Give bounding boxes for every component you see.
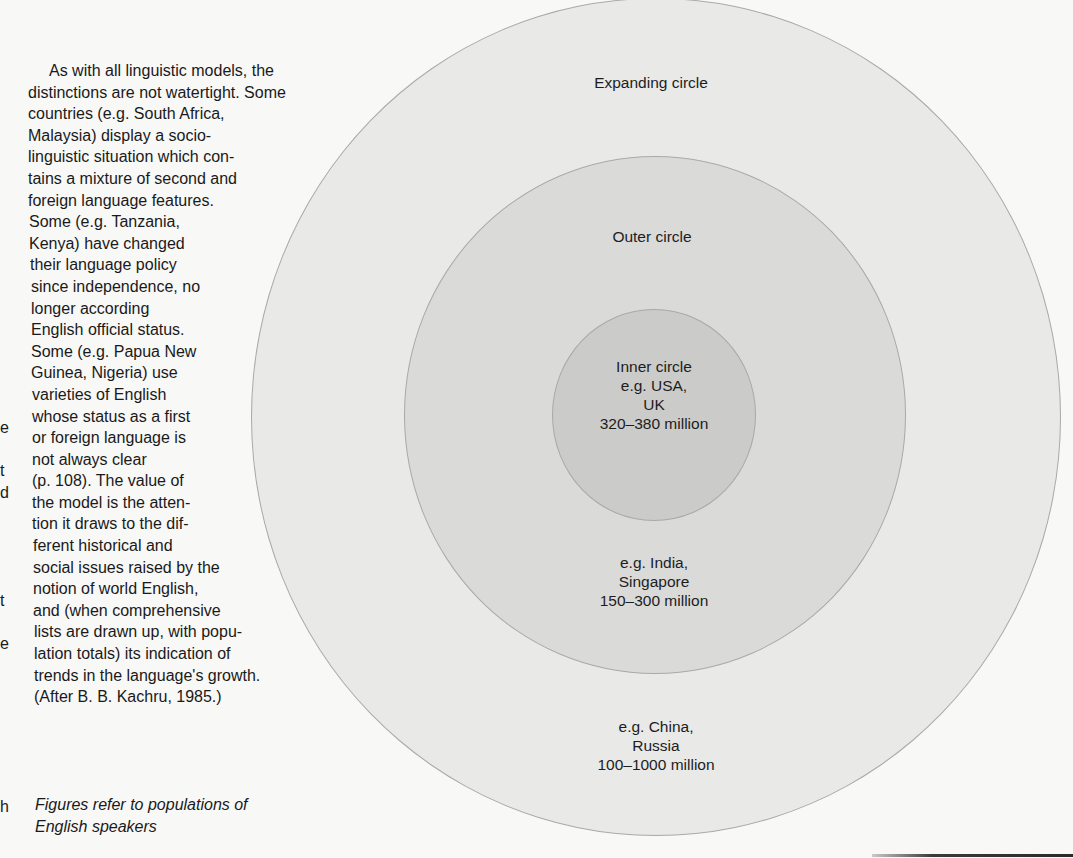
text-line: Malaysia) display a socio- (28, 125, 373, 147)
text-line: Guinea, Nigeria) use (28, 362, 373, 384)
text-line: the model is the atten- (28, 492, 373, 514)
text-line: since independence, no (28, 276, 373, 298)
text-line: their language policy (28, 254, 373, 276)
outer-circle-title-text: Outer circle (612, 227, 691, 246)
inner-circle-examples-1: e.g. USA, (600, 376, 709, 395)
caption-line: Figures refer to populations of (35, 794, 248, 816)
text-line: or foreign language is (28, 427, 373, 449)
adjacent-column-fragment: e (0, 418, 9, 438)
text-line: foreign language features. (28, 190, 373, 212)
text-line: English official status. (28, 319, 373, 341)
text-line: Kenya) have changed (28, 233, 373, 255)
expanding-circle-title: Expanding circle (594, 73, 708, 92)
text-line: varieties of English (28, 384, 373, 406)
text-line: lation totals) its indication of (28, 643, 373, 665)
expanding-circle-examples-1: e.g. China, (597, 717, 714, 736)
inner-circle-examples-2: UK (600, 395, 709, 414)
text-line: linguistic situation which con- (28, 146, 373, 168)
text-line: tains a mixture of second and (28, 168, 373, 190)
outer-circle-examples-2: Singapore (600, 572, 709, 591)
inner-circle-label: Inner circle e.g. USA, UK 320–380 millio… (600, 357, 709, 433)
adjacent-column-fragment: h (0, 797, 9, 817)
text-line: not always clear (28, 449, 373, 471)
text-line: trends in the language's growth. (28, 665, 373, 687)
text-line: (p. 108). The value of (28, 470, 373, 492)
outer-circle-title: Outer circle (612, 227, 691, 246)
text-line: ferent historical and (28, 535, 373, 557)
text-line: As with all linguistic models, the (28, 60, 373, 82)
figure-caption: Figures refer to populations of English … (35, 794, 248, 837)
page-bottom-rule (872, 854, 1073, 857)
text-line: social issues raised by the (28, 557, 373, 579)
expanding-circle-examples-2: Russia (597, 736, 714, 755)
expanding-circle-population: 100–1000 million (597, 755, 714, 774)
adjacent-column-fragment: t (0, 591, 4, 611)
inner-circle-title: Inner circle (600, 357, 709, 376)
text-line: whose status as a first (28, 406, 373, 428)
text-line: and (when comprehensive (28, 600, 373, 622)
outer-circle-examples-1: e.g. India, (600, 553, 709, 572)
caption-line: English speakers (35, 816, 248, 838)
inner-circle-population: 320–380 million (600, 414, 709, 433)
text-line: Some (e.g. Papua New (28, 341, 373, 363)
text-line: Some (e.g. Tanzania, (28, 211, 373, 233)
citation-line: (After B. B. Kachru, 1985.) (28, 686, 373, 708)
text-line: distinctions are not watertight. Some (28, 82, 373, 104)
adjacent-column-fragment: e (0, 634, 9, 654)
adjacent-column-fragment: t (0, 461, 4, 481)
expanding-circle-title-text: Expanding circle (594, 73, 708, 92)
adjacent-column-fragment: d (0, 483, 9, 503)
text-line: countries (e.g. South Africa, (28, 103, 373, 125)
expanding-circle-examples-label: e.g. China, Russia 100–1000 million (597, 717, 714, 774)
explanatory-text: As with all linguistic models, the disti… (28, 60, 373, 708)
text-line: lists are drawn up, with popu- (28, 621, 373, 643)
outer-circle-examples-label: e.g. India, Singapore 150–300 million (600, 553, 709, 610)
text-line: tion it draws to the dif- (28, 513, 373, 535)
text-line: notion of world English, (28, 578, 373, 600)
outer-circle-population: 150–300 million (600, 591, 709, 610)
text-line: longer according (28, 298, 373, 320)
